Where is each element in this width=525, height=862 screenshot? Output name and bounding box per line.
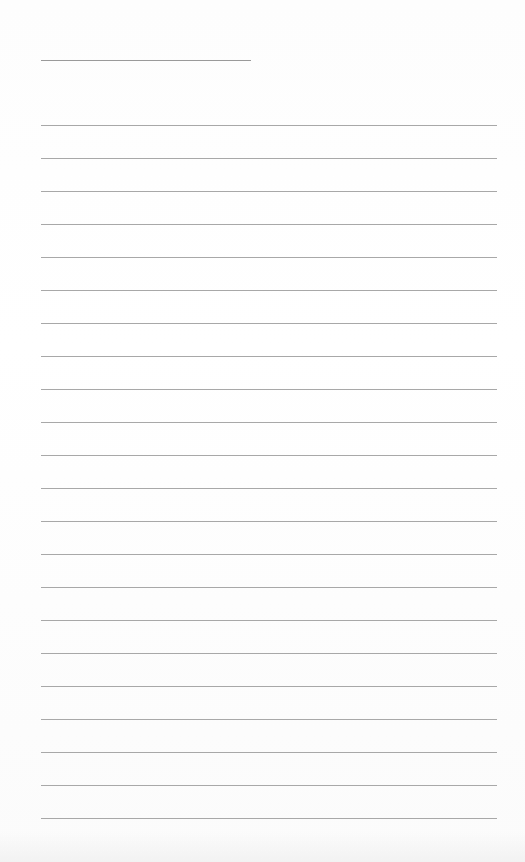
ruled-line [41, 389, 497, 390]
ruled-line [41, 158, 497, 159]
ruled-line [41, 455, 497, 456]
ruled-line [41, 125, 497, 126]
lined-paper-page [0, 0, 525, 862]
ruled-line [41, 521, 497, 522]
ruled-lines [0, 0, 525, 862]
ruled-line [41, 554, 497, 555]
ruled-line [41, 323, 497, 324]
ruled-line [41, 488, 497, 489]
ruled-line [41, 224, 497, 225]
ruled-line [41, 785, 497, 786]
ruled-line [41, 719, 497, 720]
ruled-line [41, 620, 497, 621]
ruled-line [41, 257, 497, 258]
ruled-line [41, 587, 497, 588]
ruled-line [41, 653, 497, 654]
ruled-line [41, 422, 497, 423]
ruled-line [41, 290, 497, 291]
ruled-line [41, 191, 497, 192]
ruled-line [41, 356, 497, 357]
ruled-line [41, 752, 497, 753]
ruled-line [41, 818, 497, 819]
ruled-line [41, 686, 497, 687]
